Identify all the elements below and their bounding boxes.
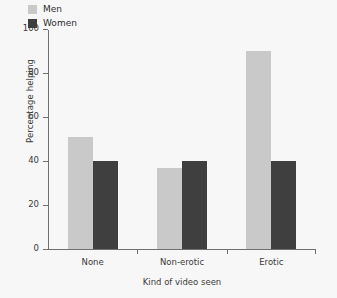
x-category-label-none: None (82, 257, 104, 267)
x-axis-line (48, 249, 316, 250)
plot-area: 020406080100 NoneNon-eroticErotic (48, 30, 316, 250)
y-tick-0: 0 (43, 249, 48, 250)
x-category-label-erotic: Erotic (259, 257, 283, 267)
x-axis-title: Kind of video seen (48, 277, 316, 287)
y-tick-label-40: 40 (28, 155, 39, 165)
legend-swatch-women-icon (28, 19, 37, 28)
y-tick-20: 20 (43, 205, 48, 206)
x-tick-divider-0 (137, 250, 138, 254)
legend-item-men: Men (28, 2, 77, 16)
bar-chart-figure: Percentage helping 020406080100 NoneNon-… (0, 0, 337, 298)
y-tick-label-0: 0 (34, 243, 39, 253)
bar-men-none (68, 137, 93, 249)
y-tick-60: 60 (43, 117, 48, 118)
y-axis-line (48, 30, 49, 250)
bar-men-erotic (246, 51, 271, 249)
y-tick-80: 80 (43, 73, 48, 74)
legend-label-women: Women (43, 18, 77, 28)
x-tick-divider-1 (227, 250, 228, 254)
y-axis-title: Percentage helping (25, 31, 35, 171)
bar-women-none (93, 161, 118, 249)
legend-item-women: Women (28, 16, 77, 30)
bar-women-non-erotic (182, 161, 207, 249)
bar-women-erotic (271, 161, 296, 249)
y-tick-label-20: 20 (28, 199, 39, 209)
y-tick-label-60: 60 (28, 111, 39, 121)
x-category-label-non-erotic: Non-erotic (160, 257, 204, 267)
legend-label-men: Men (43, 4, 62, 14)
legend-swatch-men-icon (28, 5, 37, 14)
y-tick-label-80: 80 (28, 67, 39, 77)
x-tick-end (315, 250, 316, 254)
chart-legend: Men Women (28, 2, 77, 30)
y-tick-40: 40 (43, 161, 48, 162)
bar-men-non-erotic (157, 168, 182, 249)
